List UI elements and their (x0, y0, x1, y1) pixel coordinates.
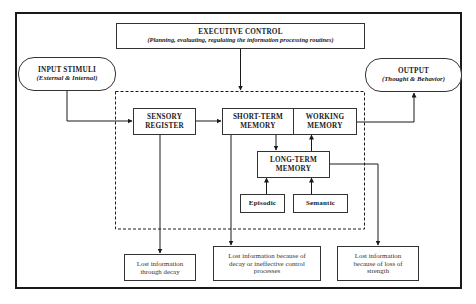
input-title: INPUT STIMULI (38, 66, 96, 74)
loss-2-text: Lost information because of (228, 252, 306, 260)
semantic-label: Semantic (306, 199, 335, 207)
sensory-register-box: SENSORY REGISTER (133, 108, 196, 135)
output-subtitle: (Thought & Behavior) (382, 75, 445, 83)
loss-3-text-3: strength (367, 267, 389, 275)
long-term-memory-box: LONG-TERM MEMORY (257, 151, 330, 178)
wm-label-2: MEMORY (307, 122, 342, 130)
episodic-box: Episodic (240, 194, 285, 213)
output-node: OUTPUT (Thought & Behavior) (365, 58, 462, 92)
executive-control-box: EXECUTIVE CONTROL (Planning, evaluating,… (116, 23, 365, 49)
ltm-label: LONG-TERM (270, 156, 317, 164)
stm-label-2: MEMORY (240, 122, 275, 130)
loss-decay-box: Lost information through decay (124, 254, 196, 281)
episodic-label: Episodic (249, 199, 276, 207)
executive-control-title: EXECUTIVE CONTROL (198, 28, 282, 36)
loss-1-text-2: through decay (140, 268, 179, 276)
short-term-memory-box: SHORT-TERM MEMORY (222, 108, 294, 135)
loss-control-box: Lost information because of decay or ine… (213, 246, 321, 281)
loss-strength-box: Lost information because of loss of stre… (337, 246, 419, 281)
executive-control-subtitle: (Planning, evaluating, regulating the in… (147, 36, 333, 43)
stm-label: SHORT-TERM (233, 113, 283, 121)
loss-2-text-2: decay or ineffective control (229, 260, 305, 268)
output-title: OUTPUT (398, 67, 429, 75)
semantic-box: Semantic (293, 194, 348, 213)
input-subtitle: (External & Internal) (37, 74, 98, 82)
wm-label: WORKING (306, 113, 345, 121)
loss-3-text: Lost information (355, 252, 402, 260)
loss-1-text: Lost information (137, 260, 184, 268)
sensory-register-label-2: REGISTER (145, 122, 184, 130)
input-stimuli-node: INPUT STIMULI (External & Internal) (18, 57, 116, 91)
sensory-register-label: SENSORY (147, 113, 182, 121)
ltm-label-2: MEMORY (276, 165, 311, 173)
loss-2-text-3: processes (254, 267, 280, 275)
loss-3-text-2: because of loss of (353, 260, 402, 268)
working-memory-box: WORKING MEMORY (293, 108, 357, 135)
